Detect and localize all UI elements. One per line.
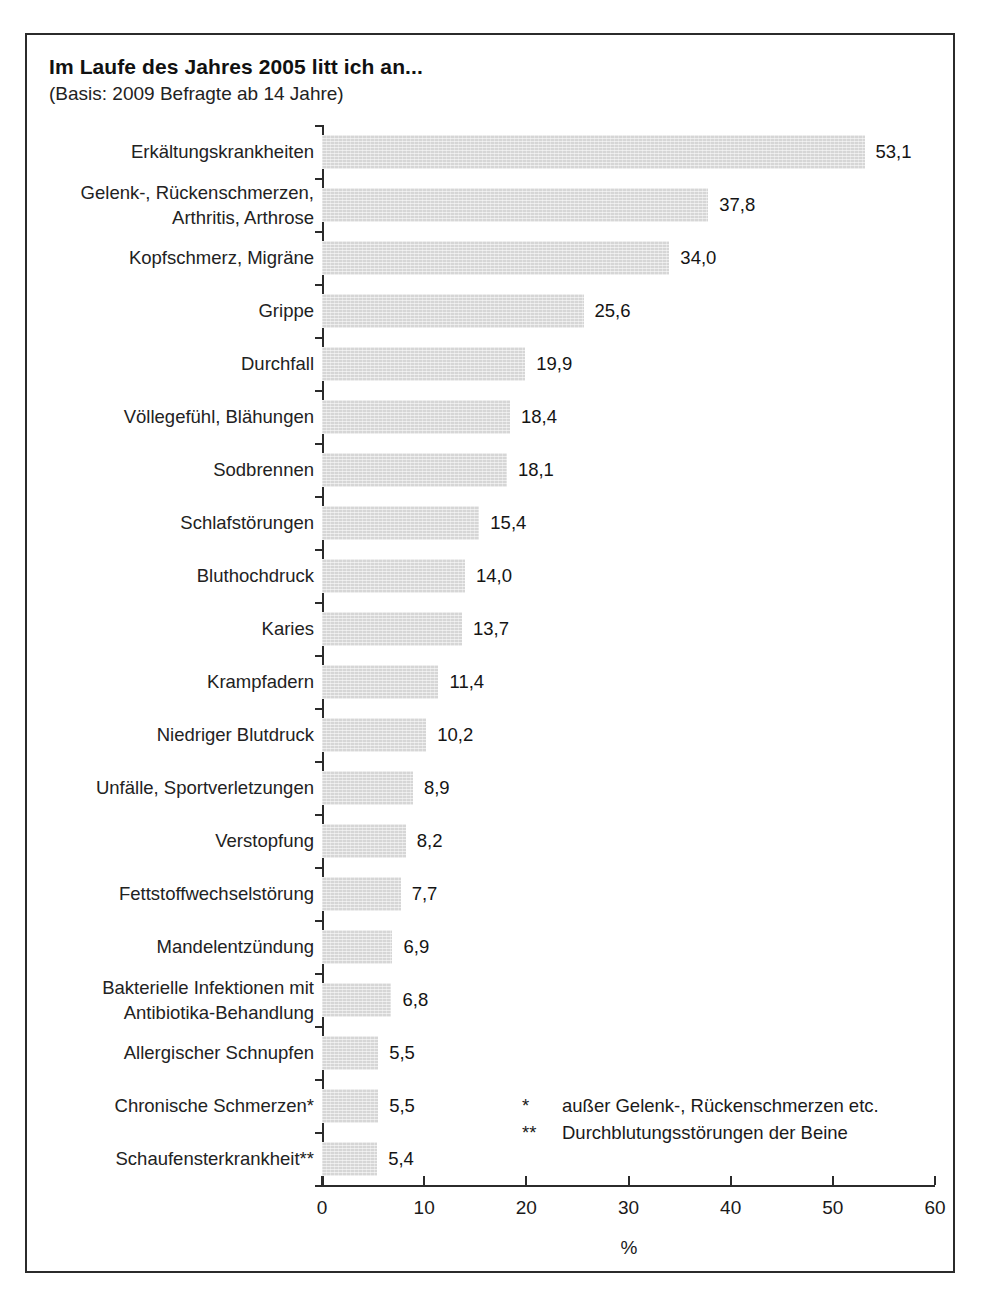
x-axis-line (322, 1185, 935, 1187)
plot-area: Erkältungskrankheiten53,1Gelenk-, Rücken… (27, 35, 957, 1275)
bar (322, 771, 413, 805)
bar (322, 559, 465, 593)
category-tick (315, 655, 323, 657)
footnote-mark: * (522, 1092, 562, 1119)
x-axis-tick (730, 1176, 732, 1185)
category-label: Allergischer Schnupfen (124, 1040, 323, 1065)
category-label: Bakterielle Infektionen mit Antibiotika-… (102, 975, 323, 1025)
bar (322, 294, 584, 328)
x-axis-tick (832, 1176, 834, 1185)
bar (322, 718, 426, 752)
category-label: Chronische Schmerzen* (115, 1093, 323, 1118)
category-label: Mandelentzündung (157, 934, 323, 959)
category-label: Fettstoffwechselstörung (119, 881, 323, 906)
value-label: 14,0 (476, 565, 512, 587)
category-label: Grippe (258, 298, 323, 323)
x-axis-tick (321, 1176, 323, 1185)
category-tick (315, 231, 323, 233)
category-label: Krampfadern (207, 669, 323, 694)
footnote-row: * außer Gelenk-, Rückenschmerzen etc. (522, 1092, 879, 1119)
chart-frame: Im Laufe des Jahres 2005 litt ich an... … (25, 33, 955, 1273)
x-axis-tick (934, 1176, 936, 1185)
bar (322, 400, 510, 434)
value-label: 8,2 (417, 830, 443, 852)
category-tick (315, 284, 323, 286)
value-label: 7,7 (412, 883, 438, 905)
value-label: 10,2 (437, 724, 473, 746)
category-tick (315, 337, 323, 339)
bar (322, 1036, 378, 1070)
value-label: 8,9 (424, 777, 450, 799)
category-label: Durchfall (241, 351, 323, 376)
category-label: Karies (262, 616, 323, 641)
bar (322, 188, 708, 222)
category-tick (315, 496, 323, 498)
value-label: 18,1 (518, 459, 554, 481)
bar (322, 612, 462, 646)
bar (322, 983, 391, 1017)
value-label: 25,6 (595, 300, 631, 322)
category-tick (315, 549, 323, 551)
value-label: 37,8 (719, 194, 755, 216)
x-axis-label: % (621, 1237, 638, 1259)
value-label: 6,9 (403, 936, 429, 958)
footnote-row: ** Durchblutungsstörungen der Beine (522, 1119, 879, 1146)
category-label: Gelenk-, Rückenschmerzen, Arthritis, Art… (81, 180, 323, 230)
footnote-mark: ** (522, 1119, 562, 1146)
category-tick (315, 1079, 323, 1081)
category-tick (315, 867, 323, 869)
value-label: 5,5 (389, 1042, 415, 1064)
x-axis-tick (628, 1176, 630, 1185)
category-label: Erkältungskrankheiten (131, 139, 323, 164)
bar (322, 1142, 377, 1176)
x-axis-tick-label: 0 (317, 1197, 328, 1219)
bar (322, 453, 507, 487)
x-axis-tick-label: 60 (924, 1197, 945, 1219)
category-tick (315, 390, 323, 392)
value-label: 5,4 (388, 1148, 414, 1170)
bar (322, 930, 392, 964)
category-label: Bluthochdruck (197, 563, 323, 588)
x-axis-tick-label: 50 (822, 1197, 843, 1219)
value-label: 15,4 (490, 512, 526, 534)
value-label: 18,4 (521, 406, 557, 428)
value-label: 53,1 (876, 141, 912, 163)
bar (322, 506, 479, 540)
value-label: 13,7 (473, 618, 509, 640)
category-label: Niedriger Blutdruck (157, 722, 323, 747)
category-tick (315, 761, 323, 763)
footnote-text: Durchblutungsstörungen der Beine (562, 1119, 848, 1146)
category-tick (315, 920, 323, 922)
x-axis-tick-label: 30 (618, 1197, 639, 1219)
category-label: Schlafstörungen (180, 510, 323, 535)
category-tick (315, 1185, 323, 1187)
category-label: Schaufensterkrankheit** (116, 1146, 323, 1171)
x-axis-tick-label: 40 (720, 1197, 741, 1219)
value-label: 5,5 (389, 1095, 415, 1117)
x-axis-tick (423, 1176, 425, 1185)
x-axis-tick-label: 20 (516, 1197, 537, 1219)
value-label: 34,0 (680, 247, 716, 269)
category-tick (315, 708, 323, 710)
bar (322, 665, 438, 699)
value-label: 6,8 (402, 989, 428, 1011)
category-label: Sodbrennen (213, 457, 323, 482)
category-tick (315, 443, 323, 445)
category-tick (315, 1132, 323, 1134)
value-label: 19,9 (536, 353, 572, 375)
bar (322, 241, 669, 275)
bar (322, 1089, 378, 1123)
category-label: Kopfschmerz, Migräne (129, 245, 323, 270)
category-label: Unfälle, Sportverletzungen (96, 775, 323, 800)
footnote-text: außer Gelenk-, Rückenschmerzen etc. (562, 1092, 879, 1119)
category-tick (315, 1026, 323, 1028)
value-label: 11,4 (449, 671, 484, 693)
x-axis-tick (525, 1176, 527, 1185)
bar (322, 824, 406, 858)
bar (322, 877, 401, 911)
x-axis-tick-label: 10 (414, 1197, 435, 1219)
category-label: Verstopfung (215, 828, 323, 853)
category-tick (315, 814, 323, 816)
footnotes: * außer Gelenk-, Rückenschmerzen etc. **… (522, 1092, 879, 1146)
category-tick (315, 125, 323, 127)
